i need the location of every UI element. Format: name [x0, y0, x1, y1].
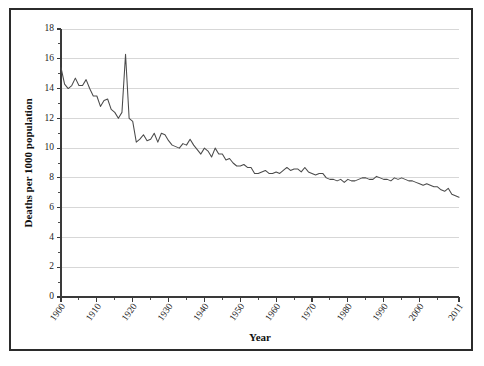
y-tick-label: 16 — [45, 53, 55, 63]
y-tick-label: 10 — [45, 142, 55, 152]
x-tick-label: 1980 — [335, 301, 354, 323]
gridlines-group — [61, 29, 459, 267]
x-axis-title: Year — [249, 331, 271, 343]
x-tick-label: 1960 — [263, 301, 282, 323]
chart-canvas: 024681012141618 190019101920193019401950… — [11, 10, 475, 353]
x-tick-label: 1910 — [84, 301, 103, 323]
x-tick-label: 1940 — [191, 301, 210, 323]
y-axis-title: Deaths per 1000 population — [22, 98, 34, 227]
x-tick-label: 1900 — [48, 301, 67, 323]
x-major-ticks-group — [61, 297, 459, 302]
x-tick-label: 1990 — [371, 301, 390, 323]
figure-frame: 024681012141618 190019101920193019401950… — [9, 8, 473, 351]
y-tick-label: 8 — [49, 172, 54, 182]
y-tick-label: 14 — [45, 83, 55, 93]
y-tick-label: 0 — [49, 291, 54, 301]
x-tick-labels-group: 1900191019201930194019501960197019801990… — [48, 301, 465, 323]
x-tick-label: 1950 — [227, 301, 246, 323]
line-chart: 024681012141618 190019101920193019401950… — [11, 10, 475, 353]
x-tick-label: 1920 — [120, 301, 139, 323]
x-tick-label: 2000 — [407, 301, 426, 323]
death-rate-series-line — [61, 54, 459, 197]
y-tick-label: 2 — [49, 261, 54, 271]
x-tick-label: 1970 — [299, 301, 318, 323]
y-tick-label: 4 — [49, 232, 54, 242]
y-tick-labels-group: 024681012141618 — [45, 23, 55, 301]
y-tick-label: 18 — [45, 23, 55, 33]
x-tick-label: 2011 — [446, 301, 465, 322]
y-tick-label: 12 — [45, 113, 55, 123]
y-tick-label: 6 — [49, 202, 54, 212]
x-tick-label: 1930 — [156, 301, 175, 323]
